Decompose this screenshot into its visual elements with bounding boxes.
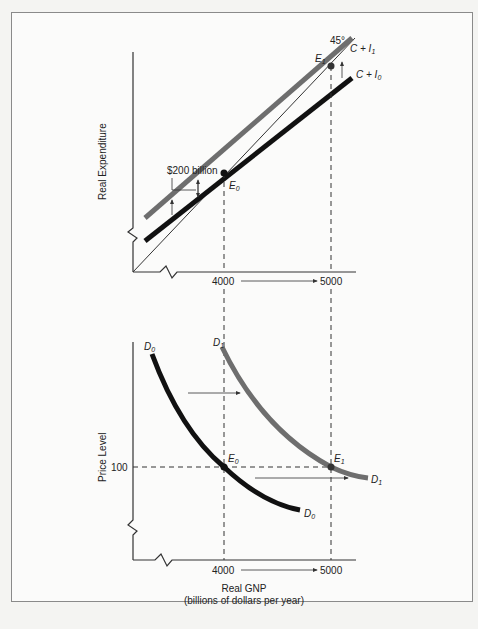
label-d0-top: D0	[144, 341, 155, 353]
economics-diagram: $200 billion 45° C + I1 C + I0 E0 E1 400…	[0, 0, 478, 629]
point-e1-bottom	[328, 464, 335, 471]
top-x-tick-5000: 5000	[320, 276, 343, 287]
d1-curve	[222, 347, 368, 478]
label-d0-bottom: D0	[304, 508, 315, 520]
top-panel: $200 billion 45° C + I1 C + I0 E0 E1 400…	[97, 35, 381, 287]
label-c-plus-i1: C + I1	[350, 43, 375, 55]
top-y-label: Real Expenditure	[97, 123, 108, 200]
top-y-axis	[128, 52, 137, 272]
point-e1-top	[328, 63, 335, 70]
45-degree-line	[133, 38, 355, 272]
label-e0-bottom: E0	[228, 453, 239, 465]
bottom-x-tick-4000: 4000	[212, 565, 235, 576]
label-e1-top: E1	[315, 53, 326, 65]
x-axis-title: Real GNP	[221, 583, 266, 594]
label-d1-bottom: D1	[371, 474, 382, 486]
label-45deg: 45°	[330, 35, 345, 46]
point-e0-top	[221, 170, 228, 177]
label-d1-top: D1	[213, 337, 224, 349]
d0-curve	[152, 354, 300, 510]
top-x-tick-4000: 4000	[212, 276, 235, 287]
label-e1-bottom: E1	[334, 453, 345, 465]
x-axis-subtitle: (billions of dollars per year)	[184, 595, 304, 606]
bottom-y-axis	[128, 342, 137, 560]
label-c-plus-i0: C + I0	[356, 69, 381, 81]
bottom-y-label: Price Level	[97, 433, 108, 482]
point-e0-bottom	[221, 464, 228, 471]
bottom-y-tick-100: 100	[111, 462, 128, 473]
c-plus-i0-line	[145, 78, 352, 241]
bottom-x-tick-5000: 5000	[320, 565, 343, 576]
annotation-200-billion: $200 billion	[167, 165, 218, 176]
bottom-panel: D0 D1 D0 D1 E0 E1 100 4000 5000 Price Le…	[97, 337, 382, 576]
c-plus-i1-line	[145, 38, 352, 218]
label-e0-top: E0	[229, 180, 240, 192]
